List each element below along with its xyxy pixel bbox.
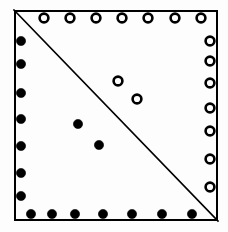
open-circle-marker	[118, 14, 127, 23]
open-circle-marker	[206, 183, 215, 192]
filled-dot-marker	[16, 141, 25, 150]
filled-dot-marker	[47, 209, 56, 218]
filled-dot-marker	[16, 114, 25, 123]
open-circle-marker	[206, 37, 215, 46]
open-circle-marker	[144, 14, 153, 23]
open-circle-marker	[206, 155, 215, 164]
filled-dot-marker	[16, 191, 25, 200]
filled-dot-marker	[16, 59, 25, 68]
open-circle-marker	[114, 77, 123, 86]
filled-dot-marker	[127, 209, 136, 218]
open-circle-marker	[206, 104, 215, 113]
open-circle-marker	[92, 14, 101, 23]
filled-dot-marker	[16, 88, 25, 97]
left-edge-filled-dots	[16, 36, 25, 200]
open-circle-marker	[133, 95, 142, 104]
filled-dot-marker	[187, 209, 196, 218]
filled-dot-marker	[70, 209, 79, 218]
open-circle-marker	[66, 14, 75, 23]
filled-dot-marker	[16, 36, 25, 45]
open-circle-marker	[206, 127, 215, 136]
open-circle-marker	[40, 14, 49, 23]
figure-canvas	[0, 0, 228, 232]
filled-dot-marker	[98, 209, 107, 218]
filled-dot-marker	[73, 119, 82, 128]
open-circle-marker	[197, 14, 206, 23]
filled-dot-marker	[16, 168, 25, 177]
filled-dot-marker	[157, 209, 166, 218]
open-circle-marker	[206, 79, 215, 88]
point-set-diagram	[0, 0, 228, 232]
filled-dot-marker	[94, 140, 103, 149]
figure-background	[0, 0, 228, 232]
open-circle-marker	[171, 14, 180, 23]
open-circle-marker	[206, 57, 215, 66]
filled-dot-marker	[26, 209, 35, 218]
